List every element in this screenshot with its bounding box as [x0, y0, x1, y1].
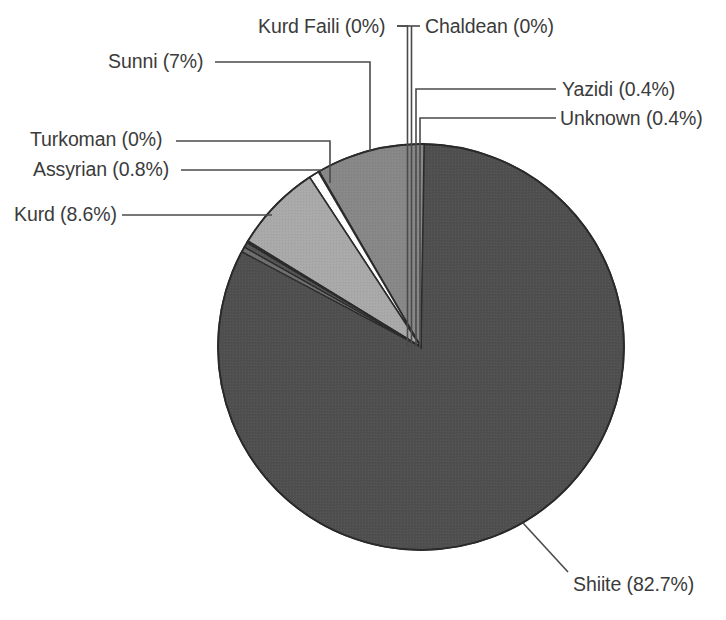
- pie-chart-figure: Kurd Faili (0%) Chaldean (0%) Sunni (7%)…: [0, 0, 726, 620]
- leader-line-turkoman: [176, 141, 330, 183]
- leader-line-shiite: [523, 523, 568, 572]
- pie-label-shiite: Shiite (82.7%): [573, 575, 694, 595]
- pie-texture-overlay: [219, 145, 623, 549]
- pie-label-kurd-faili: Kurd Faili (0%): [258, 17, 385, 37]
- pie-label-assyrian: Assyrian (0.8%): [33, 160, 169, 180]
- pie-label-kurd: Kurd (8.6%): [14, 205, 117, 225]
- pie-slices: [218, 144, 624, 550]
- pie-label-chaldean: Chaldean (0%): [425, 17, 554, 37]
- pie-label-yazidi: Yazidi (0.4%): [562, 80, 675, 100]
- pie-label-unknown: Unknown (0.4%): [560, 109, 703, 129]
- pie-label-turkoman: Turkoman (0%): [30, 130, 162, 150]
- pie-label-sunni: Sunni (7%): [108, 52, 203, 72]
- leader-line-sunni: [215, 62, 370, 152]
